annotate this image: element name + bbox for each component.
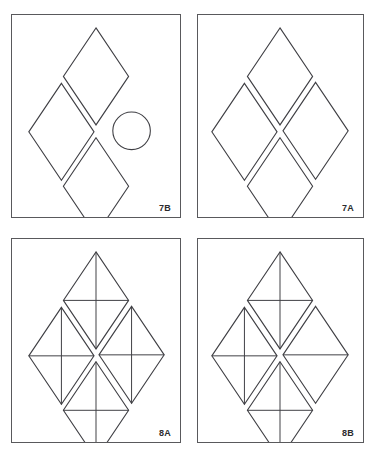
diamond-outline xyxy=(247,28,312,125)
panel-8b[interactable]: 8B xyxy=(197,238,364,443)
panel-8a-label: 8A xyxy=(159,429,171,438)
shape-diamond-bottom xyxy=(63,138,128,217)
shape-diamond-right xyxy=(99,306,164,403)
shape-diamond-left xyxy=(29,83,94,180)
shape-diamond-left xyxy=(29,307,94,404)
diamond-outline xyxy=(29,83,94,180)
shape-diamond-top xyxy=(247,28,312,125)
shape-diamond-right xyxy=(283,82,348,179)
shape-diamond-bottom xyxy=(247,362,312,442)
diamond-outline xyxy=(63,138,128,217)
shape-diamond-top xyxy=(63,28,128,125)
shape-diamond-top xyxy=(63,252,128,349)
shape-diamond-bottom xyxy=(63,362,128,442)
shape-diamond-right xyxy=(283,306,348,403)
panel-7b[interactable]: 7B xyxy=(11,14,181,218)
panel-8b-label: 8B xyxy=(342,429,354,438)
panel-7b-label: 7B xyxy=(159,204,171,213)
panel-7a[interactable]: 7A xyxy=(197,14,364,218)
panel-8b-figure xyxy=(198,239,363,442)
shape-diamond-left xyxy=(212,307,277,404)
panel-7a-label: 7A xyxy=(342,204,354,213)
panel-7a-figure xyxy=(198,15,363,217)
figure-sheet: 7B 7A 8A 8B xyxy=(0,0,375,458)
shape-diamond-top xyxy=(247,252,312,349)
panel-8a-figure xyxy=(12,239,180,442)
shape-diamond-bottom xyxy=(247,138,312,217)
shape-circle-right xyxy=(113,112,151,150)
diamond-outline xyxy=(212,83,277,180)
panel-7b-figure xyxy=(12,15,180,217)
diamond-outline xyxy=(283,82,348,179)
panel-8a[interactable]: 8A xyxy=(11,238,181,443)
diamond-outline xyxy=(63,28,128,125)
shape-diamond-left xyxy=(212,83,277,180)
diamond-outline xyxy=(247,138,312,217)
